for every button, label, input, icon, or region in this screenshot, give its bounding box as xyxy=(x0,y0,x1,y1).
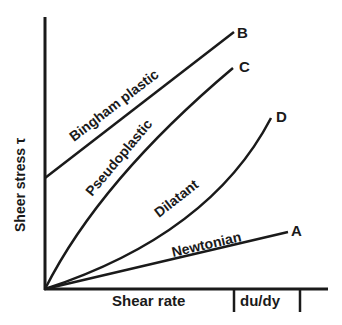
y-axis-label: Sheer stress τ xyxy=(12,137,28,232)
label-B: B xyxy=(237,24,248,41)
label-D: D xyxy=(276,108,287,125)
curve-pseudoplastic xyxy=(45,68,233,289)
name-dilatant: Dilatant xyxy=(151,176,202,220)
x-axis-unit: du/dy xyxy=(240,292,281,309)
curve-newtonian xyxy=(45,232,288,289)
label-C: C xyxy=(239,58,250,75)
label-A: A xyxy=(291,222,302,239)
x-axis-label: Shear rate xyxy=(112,292,185,309)
name-newtonian: Newtonian xyxy=(170,228,243,260)
rheology-diagram: B C D A Bingham plastic Pseudoplastic Di… xyxy=(0,0,342,325)
